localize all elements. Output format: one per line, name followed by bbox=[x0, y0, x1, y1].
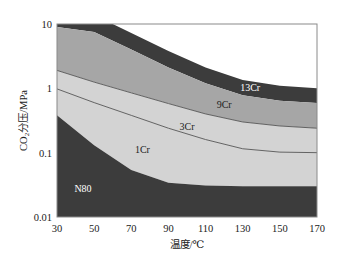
region-label-13cr: 13Cr bbox=[240, 82, 261, 93]
y-axis-ticks: 1010.10.01 bbox=[34, 19, 52, 223]
y-axis-label-prefix: CO bbox=[18, 136, 29, 151]
x-axis-ticks: 30507090110130150170 bbox=[52, 223, 325, 234]
y-tick-label: 10 bbox=[42, 19, 53, 30]
x-tick-label: 130 bbox=[235, 223, 251, 234]
region-label-3cr: 3Cr bbox=[180, 121, 196, 132]
x-tick-label: 90 bbox=[163, 223, 174, 234]
x-tick-label: 30 bbox=[52, 223, 63, 234]
y-tick-label: 0.01 bbox=[34, 212, 52, 223]
region-label-1cr: 1Cr bbox=[135, 144, 151, 155]
x-axis-label: 温度/℃ bbox=[170, 238, 205, 250]
x-tick-label: 170 bbox=[309, 223, 325, 234]
y-axis-label: CO2分压/MPa bbox=[18, 90, 31, 151]
region-label-9cr: 9Cr bbox=[217, 99, 233, 110]
chart: 1010.10.01 30507090110130150170 13Cr9Cr3… bbox=[0, 0, 342, 262]
y-tick-label: 0.1 bbox=[39, 148, 52, 159]
x-tick-label: 70 bbox=[126, 223, 137, 234]
x-tick-label: 150 bbox=[272, 223, 288, 234]
y-tick-label: 1 bbox=[47, 83, 52, 94]
x-tick-label: 50 bbox=[89, 223, 100, 234]
y-axis-label-suffix: 分压/MPa bbox=[18, 90, 29, 133]
x-tick-label: 110 bbox=[198, 223, 213, 234]
region-label-n80: N80 bbox=[74, 183, 91, 194]
